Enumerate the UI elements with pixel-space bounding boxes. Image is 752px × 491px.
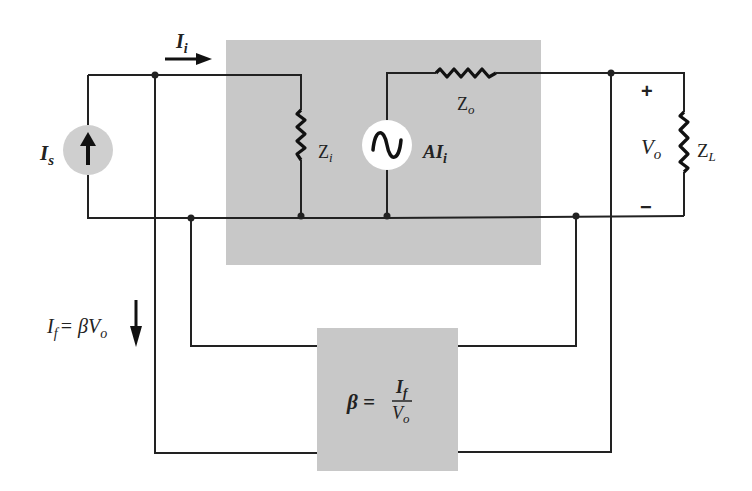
output-voltage-label: Vo	[641, 135, 662, 162]
input-current-arrow	[165, 53, 212, 65]
load-impedance-resistor	[680, 112, 688, 172]
beta-lhs: β =	[346, 390, 375, 414]
source-current-label: Is	[39, 141, 54, 168]
dependent-source	[362, 120, 412, 170]
right-arrow-icon	[196, 53, 212, 65]
input-current-label: Ii	[175, 30, 188, 56]
down-arrow-icon	[130, 326, 142, 347]
feedback-current-label: If= βVo	[46, 315, 107, 341]
feedback-block	[317, 328, 458, 471]
current-source	[63, 125, 113, 175]
circuit-diagram: Is Ii Zi Zo AIi + − Vo ZL If= βVo β = If…	[0, 0, 752, 491]
load-impedance-label: ZL	[697, 140, 716, 164]
minus-sign: −	[640, 196, 652, 218]
plus-sign: +	[641, 80, 653, 102]
circuit-svg: Is Ii Zi Zo AIi + − Vo ZL If= βVo β = If…	[0, 0, 752, 491]
feedback-current-arrow	[130, 300, 142, 347]
